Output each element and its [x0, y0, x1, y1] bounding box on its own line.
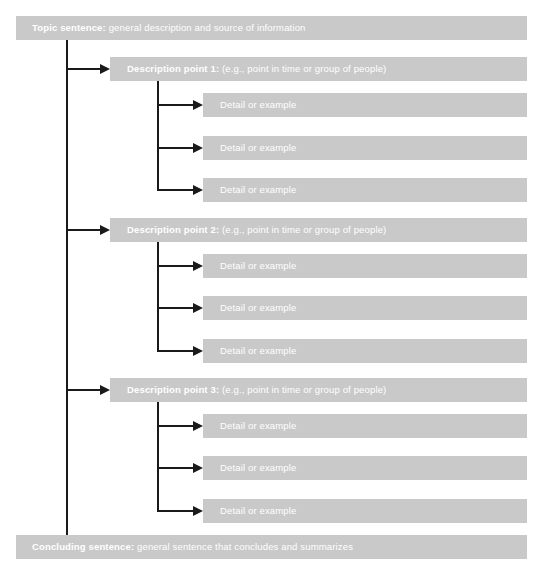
connector-point-1-detail-3: [157, 189, 195, 191]
branch-line-point-1: [157, 81, 159, 190]
concluding-sentence-rest: general sentence that concludes and summ…: [134, 541, 353, 552]
topic-sentence-rest: general description and source of inform…: [106, 22, 306, 33]
detail-bar-2-2: Detail or example: [203, 296, 527, 320]
detail-label-3-1: Detail or example: [203, 421, 296, 431]
arrow-head-point-1-detail-3: [193, 185, 203, 195]
arrow-head-point-3-detail-3: [193, 506, 203, 516]
detail-label-1-1: Detail or example: [203, 100, 296, 110]
description-point-2-lead: Description point 2:: [127, 224, 219, 235]
arrow-head-point-1: [100, 64, 110, 74]
topic-sentence-bar: Topic sentence: general description and …: [16, 16, 527, 40]
description-point-3-rest: (e.g., point in time or group of people): [219, 384, 386, 395]
description-point-2-rest: (e.g., point in time or group of people): [219, 224, 386, 235]
connector-point-1-detail-2: [157, 147, 195, 149]
description-point-3-label: Description point 3: (e.g., point in tim…: [110, 385, 386, 395]
detail-label-2-3: Detail or example: [203, 346, 296, 356]
concluding-sentence-label: Concluding sentence: general sentence th…: [16, 542, 353, 552]
connector-spine-to-point-1: [66, 68, 102, 70]
concluding-sentence-lead: Concluding sentence:: [32, 541, 134, 552]
detail-bar-2-3: Detail or example: [203, 339, 527, 363]
connector-point-3-detail-2: [157, 467, 195, 469]
connector-spine-to-point-2: [66, 229, 102, 231]
description-point-3-bar: Description point 3: (e.g., point in tim…: [110, 378, 527, 402]
detail-label-2-2: Detail or example: [203, 303, 296, 313]
connector-point-2-detail-2: [157, 307, 195, 309]
connector-point-3-detail-1: [157, 425, 195, 427]
connector-spine-to-point-3: [66, 389, 102, 391]
description-point-1-bar: Description point 1: (e.g., point in tim…: [110, 57, 527, 81]
connector-point-3-detail-3: [157, 510, 195, 512]
arrow-head-point-3: [100, 385, 110, 395]
arrow-head-point-2-detail-1: [193, 261, 203, 271]
arrow-head-point-1-detail-1: [193, 100, 203, 110]
detail-bar-3-1: Detail or example: [203, 414, 527, 438]
description-point-2-bar: Description point 2: (e.g., point in tim…: [110, 218, 527, 242]
description-point-3-lead: Description point 3:: [127, 384, 219, 395]
arrow-head-point-2: [100, 225, 110, 235]
arrow-head-point-2-detail-2: [193, 303, 203, 313]
connector-point-2-detail-3: [157, 350, 195, 352]
main-spine-line: [66, 40, 68, 545]
branch-line-point-2: [157, 242, 159, 351]
detail-label-1-2: Detail or example: [203, 143, 296, 153]
detail-bar-3-2: Detail or example: [203, 456, 527, 480]
detail-bar-1-3: Detail or example: [203, 178, 527, 202]
detail-bar-1-2: Detail or example: [203, 136, 527, 160]
detail-bar-1-1: Detail or example: [203, 93, 527, 117]
arrow-head-point-3-detail-1: [193, 421, 203, 431]
connector-point-1-detail-1: [157, 104, 195, 106]
detail-label-3-3: Detail or example: [203, 506, 296, 516]
description-point-1-lead: Description point 1:: [127, 63, 219, 74]
concluding-sentence-bar: Concluding sentence: general sentence th…: [16, 535, 527, 559]
description-point-2-label: Description point 2: (e.g., point in tim…: [110, 225, 386, 235]
description-point-1-label: Description point 1: (e.g., point in tim…: [110, 64, 386, 74]
branch-line-point-3: [157, 402, 159, 511]
detail-label-3-2: Detail or example: [203, 463, 296, 473]
detail-bar-2-1: Detail or example: [203, 254, 527, 278]
detail-bar-3-3: Detail or example: [203, 499, 527, 523]
description-point-1-rest: (e.g., point in time or group of people): [219, 63, 386, 74]
topic-sentence-lead: Topic sentence:: [32, 22, 106, 33]
paragraph-structure-diagram: Topic sentence: general description and …: [0, 0, 543, 574]
topic-sentence-label: Topic sentence: general description and …: [16, 23, 306, 33]
detail-label-1-3: Detail or example: [203, 185, 296, 195]
arrow-head-point-1-detail-2: [193, 143, 203, 153]
connector-point-2-detail-1: [157, 265, 195, 267]
arrow-head-point-3-detail-2: [193, 463, 203, 473]
arrow-head-point-2-detail-3: [193, 346, 203, 356]
detail-label-2-1: Detail or example: [203, 261, 296, 271]
